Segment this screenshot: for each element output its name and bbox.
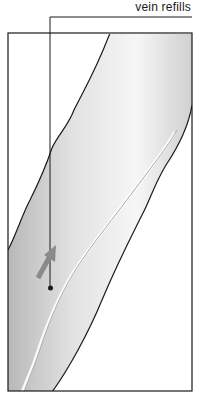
vein-marker-dot — [48, 286, 53, 291]
arm-shape — [8, 33, 192, 392]
arm-diagram — [0, 0, 199, 403]
